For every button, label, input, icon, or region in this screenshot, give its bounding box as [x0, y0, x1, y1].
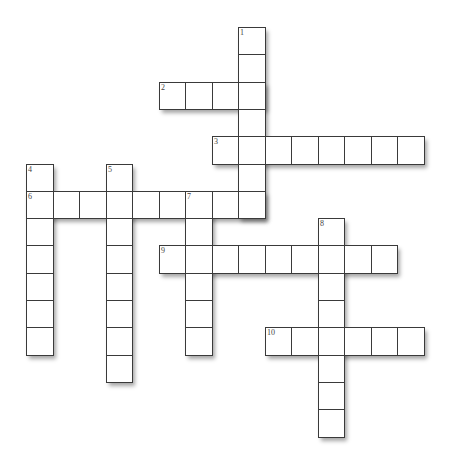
crossword-cell[interactable]: [106, 245, 133, 274]
clue-number: 8: [320, 219, 324, 228]
crossword-cell[interactable]: [238, 164, 266, 192]
crossword-cell[interactable]: [318, 273, 345, 301]
clue-number: 1: [240, 28, 244, 37]
crossword-cell[interactable]: [185, 273, 213, 301]
crossword-cell[interactable]: [291, 245, 319, 274]
clue-number: 5: [108, 165, 112, 174]
crossword-cell[interactable]: [212, 82, 239, 110]
crossword-cell[interactable]: 2: [159, 82, 186, 110]
crossword-cell[interactable]: [26, 218, 54, 246]
crossword-grid: 12346578910: [0, 0, 451, 464]
crossword-cell[interactable]: [344, 245, 372, 274]
crossword-cell[interactable]: [397, 136, 425, 165]
crossword-cell[interactable]: [238, 245, 266, 274]
crossword-cell[interactable]: [344, 327, 372, 356]
crossword-cell[interactable]: [185, 218, 213, 246]
crossword-cell[interactable]: 9: [159, 245, 186, 274]
crossword-cell[interactable]: [238, 54, 266, 83]
crossword-cell[interactable]: [291, 327, 319, 356]
crossword-cell[interactable]: [106, 218, 133, 246]
crossword-cell[interactable]: 8: [318, 218, 345, 246]
crossword-cell[interactable]: [185, 82, 213, 110]
crossword-cell[interactable]: [371, 245, 398, 274]
crossword-cell[interactable]: [185, 327, 213, 356]
crossword-cell[interactable]: [26, 245, 54, 274]
crossword-cell[interactable]: [371, 136, 398, 165]
clue-number: 10: [267, 328, 275, 337]
crossword-cell[interactable]: [53, 191, 80, 219]
crossword-cell[interactable]: [318, 409, 345, 438]
clue-number: 3: [214, 137, 218, 146]
crossword-cell[interactable]: 5: [106, 164, 133, 192]
crossword-cell[interactable]: [26, 300, 54, 328]
crossword-cell[interactable]: [106, 273, 133, 301]
crossword-cell[interactable]: [318, 136, 345, 165]
crossword-cell[interactable]: [159, 191, 186, 219]
crossword-cell[interactable]: [185, 300, 213, 328]
crossword-cell[interactable]: [318, 327, 345, 356]
crossword-cell[interactable]: [26, 327, 54, 356]
crossword-cell[interactable]: [344, 136, 372, 165]
crossword-cell[interactable]: [318, 300, 345, 328]
clue-number: 4: [28, 165, 32, 174]
crossword-cell[interactable]: [371, 327, 398, 356]
clue-number: 6: [28, 192, 32, 201]
crossword-cell[interactable]: [79, 191, 107, 219]
clue-number: 9: [161, 246, 165, 255]
crossword-cell[interactable]: [185, 245, 213, 274]
crossword-cell[interactable]: [106, 327, 133, 356]
crossword-cell[interactable]: [106, 191, 133, 219]
crossword-cell[interactable]: 10: [265, 327, 292, 356]
crossword-cell[interactable]: [397, 327, 425, 356]
crossword-cell[interactable]: 3: [212, 136, 239, 165]
crossword-cell[interactable]: [238, 136, 266, 165]
crossword-cell[interactable]: [132, 191, 160, 219]
clue-number: 7: [187, 192, 191, 201]
crossword-cell[interactable]: [238, 82, 266, 110]
crossword-cell[interactable]: [212, 245, 239, 274]
crossword-cell[interactable]: [318, 245, 345, 274]
crossword-cell[interactable]: [318, 382, 345, 410]
crossword-cell[interactable]: [265, 136, 292, 165]
crossword-cell[interactable]: 7: [185, 191, 213, 219]
crossword-cell[interactable]: 4: [26, 164, 54, 192]
crossword-cell[interactable]: [106, 300, 133, 328]
crossword-cell[interactable]: 6: [26, 191, 54, 219]
crossword-cell[interactable]: [26, 273, 54, 301]
crossword-cell[interactable]: [265, 245, 292, 274]
crossword-cell[interactable]: [318, 355, 345, 383]
crossword-cell[interactable]: 1: [238, 27, 266, 55]
crossword-cell[interactable]: [291, 136, 319, 165]
clue-number: 2: [161, 83, 165, 92]
crossword-cell[interactable]: [238, 109, 266, 137]
crossword-cell[interactable]: [106, 355, 133, 383]
crossword-cell[interactable]: [212, 191, 239, 219]
crossword-cell[interactable]: [238, 191, 266, 219]
